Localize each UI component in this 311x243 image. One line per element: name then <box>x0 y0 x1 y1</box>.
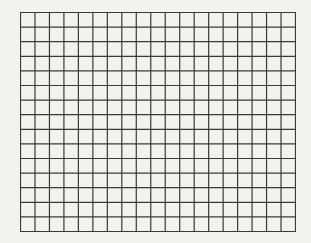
grid-lines <box>20 12 296 232</box>
grid-paper <box>20 12 296 232</box>
grid-paper-page <box>0 0 311 243</box>
